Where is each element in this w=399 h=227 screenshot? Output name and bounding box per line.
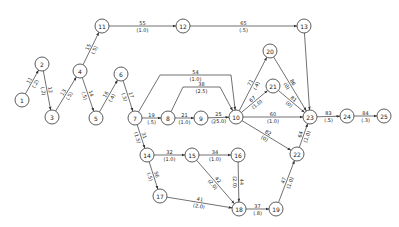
node-label: 15	[188, 152, 196, 159]
node-label: 10	[232, 114, 240, 121]
edge-6-7: 17(.5)	[120, 81, 135, 112]
node-3: 3	[45, 110, 59, 124]
node-9: 9	[194, 111, 208, 125]
node-6: 6	[114, 67, 128, 81]
edge-sublabel: (25.0)	[211, 118, 226, 124]
edge-7-14: 31(1.5)	[133, 125, 149, 149]
edge-11-12: 55(1.0)	[109, 20, 176, 33]
node-11: 11	[95, 19, 109, 33]
edge-label: 84	[362, 110, 368, 116]
node-label: 18	[235, 206, 243, 213]
edge-16-18: 44(2.0)	[232, 162, 245, 202]
edge-label: 34	[212, 149, 218, 155]
edge-label: 60	[270, 111, 276, 117]
edge-23-24: 83(.5)	[317, 110, 340, 123]
edge-9-10: 25(25.0)	[208, 111, 229, 124]
edge-sublabel: (2.0)	[232, 176, 238, 188]
edge-19-22: 47(1.0)	[278, 161, 294, 203]
edge-7-8: 19(.5)	[142, 112, 161, 125]
edge-arrow	[139, 75, 236, 112]
node-label: 3	[50, 114, 54, 121]
edge-label: 12	[47, 86, 54, 93]
edge-18-19: 37(.8)	[246, 203, 269, 216]
edge-sublabel: (.5)	[146, 172, 154, 182]
edge-8-10: 38(2.5)	[171, 81, 233, 112]
edge-sublabel: (.5)	[120, 92, 128, 102]
node-label: 5	[94, 115, 98, 122]
node-16: 16	[231, 148, 245, 162]
edge-sublabel: (.5)	[239, 27, 248, 33]
edge-13-23	[304, 33, 309, 110]
edge-sublabel: (.5)	[80, 91, 88, 101]
edge-label: 41	[196, 196, 203, 203]
node-label: 14	[143, 152, 151, 159]
edge-label: 37	[254, 203, 260, 209]
edge-14-17: 56(.5)	[146, 162, 161, 190]
node-label: 20	[266, 48, 274, 55]
node-8: 8	[161, 111, 175, 125]
edge-8-9: 21(1.0)	[175, 112, 194, 125]
edge-label: 38	[198, 81, 204, 87]
node-label: 22	[293, 151, 301, 158]
diagram-svg: 11(.2)12(.2)13(.5)14(.5)15(.5)16(.4)17(.…	[0, 0, 399, 227]
node-25: 25	[377, 109, 391, 123]
network-diagram: 11(.2)12(.2)13(.5)14(.5)15(.5)16(.4)17(.…	[0, 0, 399, 227]
node-19: 19	[269, 202, 283, 216]
edge-sublabel: (1.0)	[179, 119, 191, 125]
edge-sublabel: (.5)	[324, 117, 333, 123]
edge-label: 25	[215, 111, 222, 117]
edge-10-23: 60(1.0)	[243, 111, 303, 124]
edge-label: 55	[139, 20, 145, 26]
edge-label: 65	[240, 20, 246, 26]
edge-sublabel: (1.0)	[164, 156, 176, 162]
node-17: 17	[153, 189, 167, 203]
edge-label: 21	[181, 112, 187, 118]
edge-sublabel: (.8)	[253, 210, 262, 216]
node-1: 1	[15, 93, 29, 107]
edge-sublabel: (1.0)	[137, 27, 149, 33]
edge-sublabel: (1.0)	[209, 156, 221, 162]
node-7: 7	[128, 111, 142, 125]
node-5: 5	[89, 111, 103, 125]
node-label: 11	[98, 23, 106, 30]
edge-17-18: 41(2.0)	[167, 195, 232, 210]
node-label: 12	[179, 23, 187, 30]
node-label: 23	[306, 114, 314, 121]
node-22: 22	[290, 147, 304, 161]
edge-sublabel: (.5)	[147, 119, 156, 125]
edge-22-23: 64(1.0)	[295, 124, 311, 148]
node-label: 16	[234, 152, 242, 159]
edge-4-11: 15(.5)	[83, 32, 99, 64]
edge-label: 44	[239, 179, 245, 185]
node-label: 17	[156, 193, 164, 200]
node-20: 20	[263, 44, 277, 58]
node-12: 12	[176, 19, 190, 33]
edge-14-15: 32(1.0)	[154, 149, 185, 162]
edge-sublabel: (.2)	[40, 86, 48, 96]
node-label: 24	[343, 113, 351, 120]
node-23: 23	[303, 110, 317, 124]
node-2: 2	[35, 57, 49, 71]
edge-label: 54	[192, 69, 198, 75]
node-14: 14	[140, 148, 154, 162]
edge-12-13: 65(.5)	[190, 20, 297, 33]
node-label: 6	[119, 71, 123, 78]
edge-1-2: 11(.2)	[24, 70, 40, 94]
edge-15-16: 34(1.0)	[199, 149, 231, 162]
edge-3-4: 13(.5)	[56, 77, 77, 111]
edge-arrow	[304, 33, 309, 110]
node-label: 21	[269, 83, 277, 90]
edge-10-22: 82(0)	[242, 121, 291, 151]
edge-sublabel: (1.0)	[267, 118, 279, 124]
node-label: 1	[20, 97, 24, 104]
nodes-layer: 1234567891011121314151617181920212223242…	[15, 19, 391, 216]
edge-label: 83	[325, 110, 332, 116]
node-10: 10	[229, 110, 243, 124]
edge-10-21: 67(1.0)	[241, 90, 267, 112]
node-label: 25	[380, 113, 388, 120]
edge-sublabel: (.3)	[361, 117, 370, 123]
edge-sublabel: (2.0)	[193, 202, 206, 210]
node-24: 24	[340, 109, 354, 123]
node-label: 7	[133, 115, 137, 122]
node-21: 21	[266, 79, 280, 93]
